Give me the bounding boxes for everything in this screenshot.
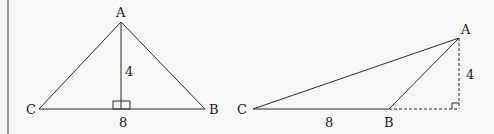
vertex-label-B: B <box>384 115 394 130</box>
vertex-label-C: C <box>237 102 247 117</box>
right-triangle-figure: A C B 4 8 <box>237 22 474 130</box>
geometry-diagram: A C B 4 8 A C B 4 8 <box>0 0 494 134</box>
side-CA <box>253 38 459 109</box>
altitude-label: 4 <box>125 64 133 79</box>
side-AB <box>121 22 205 109</box>
vertex-label-A: A <box>115 5 126 20</box>
base-label: 8 <box>325 115 333 130</box>
altitude-label: 4 <box>466 67 474 82</box>
left-triangle-figure: A C B 4 8 <box>26 5 219 130</box>
vertex-label-A: A <box>460 22 471 37</box>
vertex-label-B: B <box>209 102 219 117</box>
side-BA <box>389 38 459 109</box>
right-angle-marker <box>452 103 459 109</box>
base-label: 8 <box>119 115 127 130</box>
vertex-label-C: C <box>26 102 36 117</box>
side-CA <box>39 22 121 109</box>
